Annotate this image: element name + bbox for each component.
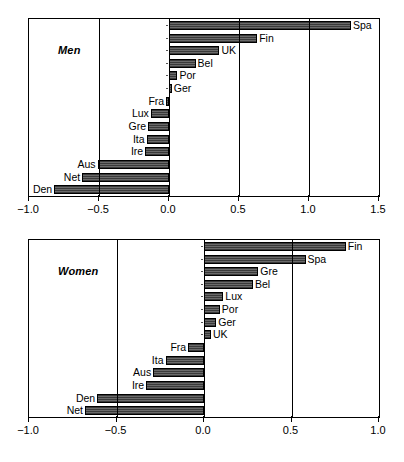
bar-label-uk: UK: [213, 327, 228, 341]
category-tick-stub: [166, 50, 168, 51]
axis-tick: [116, 416, 117, 422]
bar: [146, 381, 204, 390]
category-tick-stub: [201, 284, 203, 285]
bar: [204, 305, 220, 314]
axis-tick: [98, 195, 99, 201]
bar-label-ire: Ire: [131, 144, 143, 158]
bar: [204, 280, 253, 289]
bar: [82, 173, 169, 182]
category-tick-stub: [201, 259, 203, 260]
axis-tick-label: −1.0: [17, 203, 39, 215]
category-tick-stub: [166, 38, 168, 39]
bar: [169, 46, 219, 55]
bar-row: Por: [29, 71, 379, 80]
bar: [188, 343, 204, 352]
bar-row: UK: [29, 46, 379, 55]
panel-women: FinSpaGreBelLuxPorGerUKFraItaAusIreDenNe…: [0, 231, 404, 462]
gridline-men-0.5: [239, 19, 240, 196]
panel-title-women: Women: [58, 265, 99, 277]
bar: [204, 267, 258, 276]
axis-tick: [168, 195, 169, 201]
bar-label-bel: Bel: [198, 56, 213, 70]
bar-label-fin: Fin: [259, 31, 274, 45]
bar-label-net: Net: [64, 170, 80, 184]
bar: [85, 406, 204, 415]
bar-row: Ita: [29, 135, 379, 144]
axis-tick: [238, 195, 239, 201]
category-tick-stub: [166, 75, 168, 76]
chart-page: SpaFinUKBelPorGerFraLuxGreItaIreAusNetDe…: [0, 0, 404, 462]
bar-label-fin: Fin: [348, 239, 363, 253]
category-tick-stub: [201, 322, 203, 323]
bar: [204, 242, 346, 251]
bar-label-ger: Ger: [174, 81, 192, 95]
axis-tick-label: 1.0: [300, 203, 315, 215]
panel-title-men: Men: [58, 44, 81, 56]
gridline-women-0: [204, 240, 205, 417]
bar-label-ire: Ire: [132, 378, 144, 392]
bar: [169, 21, 351, 30]
category-tick-stub: [201, 309, 203, 310]
bar: [153, 368, 204, 377]
bar-row: Ire: [29, 147, 379, 156]
bar-row: Ger: [29, 84, 379, 93]
x-axis-men: −1.0−0.50.00.51.01.5: [28, 195, 378, 221]
category-tick-stub: [201, 271, 203, 272]
category-tick-stub: [201, 296, 203, 297]
axis-tick: [291, 416, 292, 422]
bar-label-spa: Spa: [353, 18, 372, 32]
bar-row: Fra: [29, 97, 379, 106]
category-tick-stub: [166, 88, 168, 89]
bar-label-bel: Bel: [255, 277, 270, 291]
axis-tick: [28, 416, 29, 422]
category-tick-stub: [166, 63, 168, 64]
bar-label-ita: Ita: [152, 353, 164, 367]
axis-tick-label: −0.5: [87, 203, 109, 215]
bar-row: Spa: [29, 21, 379, 30]
axis-tick-label: 0.5: [230, 203, 245, 215]
axis-tick-label: −1.0: [17, 424, 39, 436]
axis-tick-label: −0.5: [105, 424, 127, 436]
bar-row: Lux: [29, 109, 379, 118]
axis-tick-label: 1.5: [370, 203, 385, 215]
axis-tick: [308, 195, 309, 201]
bar-label-spa: Spa: [308, 252, 327, 266]
axis-tick: [203, 416, 204, 422]
bar-label-aus: Aus: [78, 157, 96, 171]
bar-row: Bel: [29, 59, 379, 68]
axis-tick: [28, 195, 29, 201]
bars-layer-men: SpaFinUKBelPorGerFraLuxGreItaIreAusNetDe…: [29, 19, 379, 196]
bar-label-fra: Fra: [148, 94, 164, 108]
axis-tick: [378, 195, 379, 201]
bar: [148, 122, 169, 131]
bar-label-fra: Fra: [170, 340, 186, 354]
bar: [204, 292, 223, 301]
axis-tick-label: 0.0: [160, 203, 175, 215]
gridline-women--0.5: [117, 240, 118, 417]
axis-tick-label: 1.0: [370, 424, 385, 436]
bar: [54, 185, 169, 194]
x-axis-women: −1.0−0.50.00.51.0: [28, 416, 378, 442]
bar: [166, 356, 205, 365]
bar-row: Den: [29, 185, 379, 194]
bar-label-uk: UK: [221, 43, 236, 57]
bar: [169, 71, 177, 80]
axis-tick-label: 0.0: [195, 424, 210, 436]
gridline-women-0.5: [292, 240, 293, 417]
panel-men: SpaFinUKBelPorGerFraLuxGreItaIreAusNetDe…: [0, 0, 404, 231]
category-tick-stub: [201, 334, 203, 335]
bar: [204, 318, 216, 327]
axis-tick-label: 0.5: [283, 424, 298, 436]
gridline-men-0: [169, 19, 170, 196]
bar: [151, 109, 169, 118]
bar: [147, 135, 169, 144]
category-tick-stub: [201, 246, 203, 247]
bar: [169, 59, 196, 68]
category-tick-stub: [166, 25, 168, 26]
bar: [98, 160, 169, 169]
gridline-men--0.5: [99, 19, 100, 196]
bar-row: Gre: [29, 122, 379, 131]
bar-row: Fin: [29, 34, 379, 43]
bar-row: Net: [29, 173, 379, 182]
gridline-men-1: [309, 19, 310, 196]
